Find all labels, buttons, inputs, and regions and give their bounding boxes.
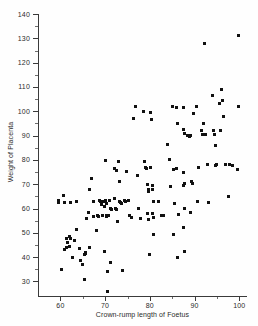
data-point [222,115,225,118]
data-point [182,106,185,109]
data-point [192,112,195,115]
data-point [152,200,155,203]
data-point [195,105,198,108]
data-point [105,202,108,205]
data-point [108,199,111,202]
data-point [182,171,185,174]
y-tick-label: 100 [0,108,30,115]
x-tick-minor [83,297,84,299]
y-axis-title: Weight of Placenta [7,102,15,202]
data-point [214,144,217,147]
data-point [139,217,142,220]
data-point [227,195,230,198]
data-point [92,215,95,218]
data-point [203,42,206,45]
data-point [109,261,112,264]
x-tick-label: 70 [93,302,117,310]
data-point [236,168,239,171]
y-tick-label: 30 [0,278,30,285]
x-tick [195,297,196,301]
data-point [182,128,185,131]
data-point [79,259,82,262]
data-point [214,164,217,167]
data-point [132,117,135,120]
data-point [66,241,69,244]
data-point [113,197,116,200]
data-point [151,184,154,187]
x-tick-minor [172,297,173,299]
x-tick [150,297,151,301]
data-point [137,207,140,210]
data-point [147,190,150,193]
data-point [134,105,137,108]
data-point [175,106,178,109]
data-point [152,233,155,236]
data-point [78,247,81,250]
data-point [81,263,84,266]
data-point [183,250,186,253]
data-point [60,268,63,271]
x-tick [60,297,61,301]
data-point [176,256,179,259]
data-point [204,133,207,136]
data-point [88,246,91,249]
data-point [157,200,160,203]
y-tick-label: 50 [0,229,30,236]
x-tick-label: 80 [138,302,162,310]
data-point [191,182,194,185]
data-point [219,129,222,132]
y-tick-label: 90 [0,132,30,139]
data-point [231,164,234,167]
data-point [177,213,180,216]
data-point [168,158,171,161]
data-point [166,143,169,146]
data-point [63,248,66,251]
data-point [75,200,78,203]
y-tick-label: 140 [0,11,30,18]
y-tick-label: 120 [0,59,30,66]
data-point [237,105,240,108]
data-point [147,218,150,221]
y-tick-label: 60 [0,205,30,212]
data-point [104,199,107,202]
data-point [176,122,179,125]
x-tick-minor [217,297,218,299]
data-point [183,207,186,210]
data-point [83,278,86,281]
data-point [200,129,203,132]
data-point [145,167,148,170]
data-point [151,212,154,215]
data-point [213,133,216,136]
data-point [146,212,149,215]
data-point [68,245,71,248]
data-point [130,216,133,219]
data-point [171,105,174,108]
x-tick-label: 100 [227,302,251,310]
data-point [75,228,78,231]
data-point [125,170,128,173]
data-point [88,188,91,191]
data-point [118,180,121,183]
data-point [85,217,88,220]
x-tick-minor [128,297,129,299]
data-point [146,183,149,186]
x-tick-label: 60 [48,302,72,310]
data-point [90,177,93,180]
data-point [62,194,65,197]
data-point [237,34,240,37]
x-tick-label: 90 [183,302,207,310]
data-point [95,229,98,232]
data-point [197,166,200,169]
data-point [117,160,120,163]
data-point [173,202,176,205]
data-point [224,163,227,166]
data-point [207,201,210,204]
x-tick [105,297,106,301]
plot-data-area [38,14,246,296]
data-point [120,202,123,205]
data-point [151,188,154,191]
data-point [110,208,113,211]
y-tick-label: 130 [0,35,30,42]
data-point [142,110,145,113]
data-point [221,99,224,102]
